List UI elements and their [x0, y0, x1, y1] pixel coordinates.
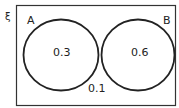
- set-a-value: 0.3: [53, 46, 71, 59]
- set-a-label: A: [27, 14, 35, 27]
- venn-diagram: ξ A B 0.3 0.6 0.1: [0, 0, 179, 108]
- set-b-value: 0.6: [131, 46, 149, 59]
- outside-value: 0.1: [88, 82, 106, 95]
- set-b-label: B: [163, 14, 171, 27]
- universal-symbol: ξ: [5, 11, 11, 22]
